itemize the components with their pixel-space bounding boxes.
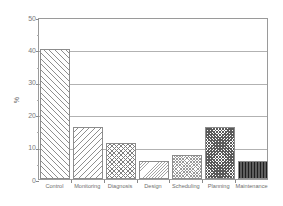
x-axis-tick-labels: ControlMonitoringDiagnosisDesignScheduli… bbox=[38, 183, 268, 197]
y-tick-mark bbox=[36, 181, 39, 182]
x-tick-label: Planning bbox=[202, 183, 235, 190]
bar-planning bbox=[205, 127, 235, 179]
x-tick-mark bbox=[71, 180, 72, 183]
bar-control bbox=[40, 49, 70, 179]
x-tick-mark bbox=[235, 180, 236, 183]
x-tick-label: Maintenance bbox=[235, 183, 268, 190]
bar-chart: % 01020304050 ControlMonitoringDiagnosis… bbox=[0, 0, 283, 206]
bar-monitoring bbox=[73, 127, 103, 179]
x-tick-mark bbox=[202, 180, 203, 183]
bar-series bbox=[39, 19, 267, 179]
y-tick-label: 10 bbox=[18, 144, 36, 151]
bar-maintenance bbox=[238, 161, 268, 179]
y-axis-tick-labels: 01020304050 bbox=[14, 0, 36, 206]
x-tick-mark bbox=[104, 180, 105, 183]
x-tick-label: Diagnosis bbox=[104, 183, 137, 190]
bar-design bbox=[139, 161, 169, 179]
y-tick-label: 50 bbox=[18, 15, 36, 22]
y-tick-label: 0 bbox=[18, 177, 36, 184]
plot-area bbox=[38, 18, 268, 180]
x-tick-mark bbox=[137, 180, 138, 183]
x-tick-label: Monitoring bbox=[71, 183, 104, 190]
x-tick-label: Scheduling bbox=[169, 183, 202, 190]
y-tick-label: 30 bbox=[18, 79, 36, 86]
bar-diagnosis bbox=[106, 143, 136, 179]
x-tick-label: Design bbox=[137, 183, 170, 190]
x-tick-mark bbox=[169, 180, 170, 183]
x-tick-label: Control bbox=[38, 183, 71, 190]
y-tick-label: 20 bbox=[18, 112, 36, 119]
bar-scheduling bbox=[172, 155, 202, 179]
y-tick-label: 40 bbox=[18, 47, 36, 54]
